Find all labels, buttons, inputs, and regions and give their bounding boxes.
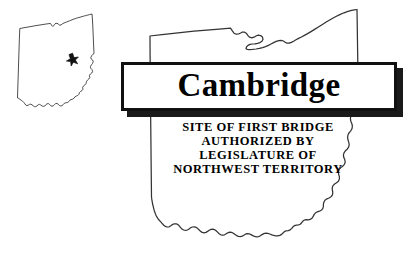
subtitle-line-1: SITE OF FIRST BRIDGE: [133, 120, 383, 134]
subtitle-line-4: NORTHWEST TERRITORY: [133, 162, 383, 176]
sign-artwork: Cambridge SITE OF FIRST BRIDGE AUTHORIZE…: [0, 0, 413, 272]
subtitle-block: SITE OF FIRST BRIDGE AUTHORIZED BY LEGIS…: [133, 120, 383, 176]
banner-title: Cambridge: [177, 69, 340, 104]
cambridge-banner: Cambridge: [121, 62, 397, 111]
subtitle-line-3: LEGISLATURE OF: [133, 148, 383, 162]
subtitle-line-2: AUTHORIZED BY: [133, 134, 383, 148]
